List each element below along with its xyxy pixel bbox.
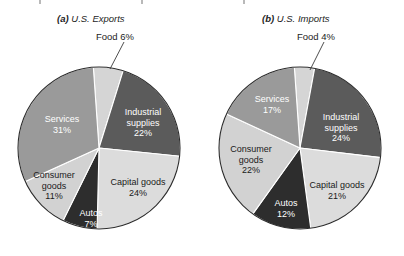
pie-charts-svg (0, 0, 404, 256)
pie-slice-capital-goods-exports[interactable] (97, 148, 179, 229)
pie-slice-industrial-supplies-imports[interactable] (300, 68, 381, 157)
food-leader-line-exports (110, 42, 124, 69)
food-callout-exports: Food 6% (96, 31, 134, 42)
panel-caption-exports: (a) U.S. Exports (57, 13, 125, 24)
pie-slice-capital-goods-imports[interactable] (300, 148, 380, 228)
panel-tag-imports: (b) (262, 13, 274, 24)
panel-title-exports: U.S. Exports (71, 13, 124, 24)
panel-title-imports: U.S. Imports (277, 13, 330, 24)
food-callout-imports: Food 4% (297, 31, 335, 42)
panel-tag-exports: (a) (57, 13, 69, 24)
panel-caption-imports: (b) U.S. Imports (262, 13, 330, 24)
pie-chart-imports (219, 67, 381, 229)
figure-container: (a) U.S. Exports Food 6% (b) U.S. Import… (0, 0, 404, 256)
food-leader-line-imports (310, 42, 324, 70)
pie-chart-exports (18, 67, 180, 229)
